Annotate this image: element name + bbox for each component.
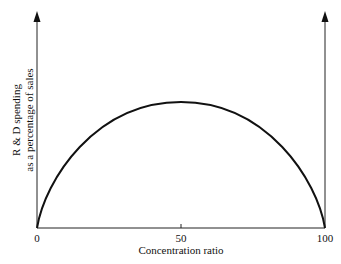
x-tick-label-100: 100: [317, 232, 334, 244]
x-axis-label: Concentration ratio: [138, 244, 223, 256]
chart-canvas: [0, 0, 341, 264]
y-axis-label: R & D spending as a percentage of sales: [10, 65, 36, 175]
rd-curve: [37, 102, 325, 228]
right-axis-arrow-icon: [322, 11, 329, 22]
x-tick-label-50: 50: [176, 232, 187, 244]
left-axis-arrow-icon: [34, 11, 41, 22]
y-axis-label-line2: as a percentage of sales: [23, 65, 36, 175]
y-axis-label-line1: R & D spending: [10, 65, 23, 175]
x-tick-label-0: 0: [34, 232, 40, 244]
